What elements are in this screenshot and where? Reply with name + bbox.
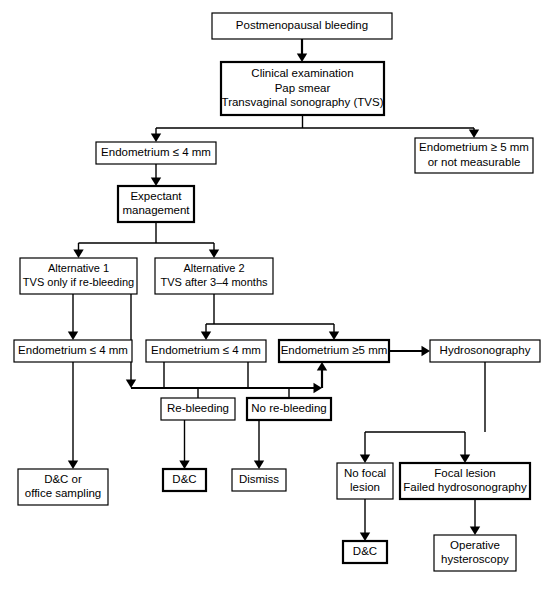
node-label: Endometrium ≤ 4 mm xyxy=(101,146,211,158)
flow-node: Operativehysteroscopy xyxy=(434,535,516,571)
arrow-head xyxy=(68,461,78,470)
arrow-head xyxy=(73,250,83,259)
node-label: No re-bleeding xyxy=(251,402,326,414)
node-label: D&C or xyxy=(44,473,82,485)
arrow-head xyxy=(201,332,211,341)
flow-node: Hydrosonography xyxy=(430,340,540,362)
node-label: Endometrium ≥ 5 mm xyxy=(419,141,529,153)
node-label: TVS only if re-bleeding xyxy=(23,276,134,288)
arrow-head xyxy=(151,134,161,143)
flow-node: No re-bleeding xyxy=(247,398,331,420)
flow-node: Focal lesionFailed hydrosonography xyxy=(400,463,530,499)
node-label: D&C xyxy=(172,473,196,485)
arrow-head xyxy=(314,383,323,393)
arrow-head xyxy=(126,380,136,389)
flow-node: Dismiss xyxy=(232,469,286,491)
node-label: No focal xyxy=(344,467,386,479)
flow-node: Endometrium ≤ 4 mm xyxy=(14,340,132,362)
arrow-head xyxy=(460,455,470,464)
flow-node: No focallesion xyxy=(337,463,393,499)
flow-node: Clinical examinationPap smearTransvagina… xyxy=(221,62,384,115)
node-label: Clinical examination xyxy=(251,67,353,79)
arrow-head xyxy=(329,332,339,341)
node-label: Alternative 1 xyxy=(48,262,109,274)
node-label: Focal lesion xyxy=(434,467,495,479)
flow-node: Postmenopausal bleeding xyxy=(212,13,392,39)
node-layer: Postmenopausal bleedingClinical examinat… xyxy=(14,13,540,571)
arrow-head xyxy=(470,527,480,536)
node-label: Dismiss xyxy=(239,473,279,485)
arrow-head xyxy=(297,54,307,63)
node-label: Failed hydrosonography xyxy=(403,481,527,493)
node-label: Hydrosonography xyxy=(440,344,531,356)
node-label: or not measurable xyxy=(428,156,521,168)
arrow-head xyxy=(317,362,327,371)
flow-node: D&C oroffice sampling xyxy=(18,469,108,505)
flowchart-svg: Postmenopausal bleedingClinical examinat… xyxy=(0,0,546,608)
arrow-head xyxy=(209,250,219,259)
node-label: Re-bleeding xyxy=(167,402,229,414)
node-label: Endometrium ≤ 4 mm xyxy=(151,344,261,356)
flow-node: Alternative 2TVS after 3–4 months xyxy=(155,258,273,294)
node-label: management xyxy=(122,204,190,216)
node-label: D&C xyxy=(353,545,377,557)
node-label: Pap smear xyxy=(275,82,331,94)
node-label: hysteroscopy xyxy=(441,553,509,565)
arrow-head xyxy=(151,178,161,187)
flow-node: Alternative 1TVS only if re-bleeding xyxy=(20,258,137,294)
node-label: Endometrium ≤ 4 mm xyxy=(18,344,128,356)
flow-node: Endometrium ≤ 4 mm xyxy=(146,340,266,362)
arrow-head xyxy=(179,461,189,470)
node-label: Endometrium ≥5 mm xyxy=(281,344,388,356)
flow-node: Expectantmanagement xyxy=(118,186,194,222)
flow-node: Endometrium ≥ 5 mmor not measurable xyxy=(415,138,533,173)
node-label: lesion xyxy=(350,481,380,493)
arrow-head xyxy=(469,130,479,139)
node-label: TVS after 3–4 months xyxy=(161,276,268,288)
flow-node: Endometrium ≤ 4 mm xyxy=(96,142,216,164)
arrow-head xyxy=(254,461,264,470)
node-label: Operative xyxy=(450,539,500,551)
flow-node: D&C xyxy=(163,469,206,491)
node-label: Expectant xyxy=(130,190,182,202)
arrow-head xyxy=(68,332,78,341)
flow-node: Re-bleeding xyxy=(161,398,235,420)
node-label: office sampling xyxy=(25,487,102,499)
flow-node: D&C xyxy=(343,541,387,563)
arrow-head xyxy=(360,455,370,464)
node-label: Transvaginal sonography (TVS) xyxy=(222,96,384,108)
flowchart-canvas: Postmenopausal bleedingClinical examinat… xyxy=(0,0,546,608)
arrow-head xyxy=(360,533,370,542)
node-label: Postmenopausal bleeding xyxy=(236,19,368,31)
node-label: Alternative 2 xyxy=(183,262,244,274)
arrow-head xyxy=(422,346,431,356)
flow-node: Endometrium ≥5 mm xyxy=(279,340,389,362)
